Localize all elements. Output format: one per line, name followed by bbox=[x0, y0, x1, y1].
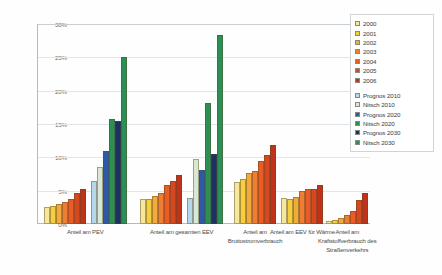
legend-item[interactable]: 2001 bbox=[355, 28, 430, 37]
legend-swatch-icon bbox=[355, 68, 360, 73]
bar[interactable] bbox=[121, 57, 127, 224]
legend-item[interactable]: Nitsch 2010 bbox=[355, 100, 430, 109]
legend-item[interactable]: 2002 bbox=[355, 38, 430, 47]
x-axis-label-line: Anteil am bbox=[287, 228, 407, 237]
legend-item[interactable]: Prognos 2010 bbox=[355, 91, 430, 100]
legend-label: 2000 bbox=[363, 20, 376, 27]
bars bbox=[44, 24, 127, 224]
legend-label: Prognos 2020 bbox=[363, 111, 400, 118]
legend-swatch-icon bbox=[355, 31, 360, 36]
bars bbox=[281, 24, 323, 224]
legend-item[interactable]: Prognos 2020 bbox=[355, 110, 430, 119]
legend-label: Prognos 2010 bbox=[363, 92, 400, 99]
legend-swatch-icon bbox=[355, 112, 360, 117]
legend-swatch-icon bbox=[355, 59, 360, 64]
legend-swatch-icon bbox=[355, 102, 360, 107]
legend-label: Nitsch 2010 bbox=[363, 101, 395, 108]
legend-item[interactable]: 2005 bbox=[355, 66, 430, 75]
legend-item[interactable]: Prognos 2030 bbox=[355, 128, 430, 137]
legend-swatch-icon bbox=[355, 130, 360, 135]
bar[interactable] bbox=[80, 189, 86, 224]
bar-group: Anteil am EEV für Wärme bbox=[280, 24, 324, 224]
legend-label: Nitsch 2030 bbox=[363, 139, 395, 146]
legend-swatch-icon bbox=[355, 21, 360, 26]
bar-group: Anteil am PEV bbox=[37, 24, 134, 224]
legend-swatch-icon bbox=[355, 140, 360, 145]
bar[interactable] bbox=[217, 35, 223, 224]
bar[interactable] bbox=[270, 145, 276, 224]
bar[interactable] bbox=[176, 175, 182, 224]
legend-label: Nitsch 2020 bbox=[363, 120, 395, 127]
bars bbox=[140, 24, 223, 224]
x-axis-label-line: Straßenverkehrs bbox=[287, 246, 407, 255]
legend-label: Prognos 2030 bbox=[363, 129, 400, 136]
legend-label: 2002 bbox=[363, 39, 376, 46]
legend-swatch-icon bbox=[355, 121, 360, 126]
legend-label: 2004 bbox=[363, 58, 376, 65]
legend-item[interactable]: 2003 bbox=[355, 47, 430, 56]
bar-groups: Anteil am PEVAnteil am gesamten EEVAntei… bbox=[37, 24, 370, 224]
legend-label: 2006 bbox=[363, 77, 376, 84]
x-axis-group-label: Anteil amKraftstoffverbrauch desStraßenv… bbox=[287, 228, 407, 255]
bars bbox=[234, 24, 276, 224]
legend-swatch-icon bbox=[355, 78, 360, 83]
chart-legend: 2000200120022003200420052006Prognos 2010… bbox=[350, 14, 434, 152]
bar[interactable] bbox=[362, 193, 368, 224]
chart-container: 30%25%20%15%10%5%0% Anteil am PEVAnteil … bbox=[0, 0, 442, 275]
legend-swatch-icon bbox=[355, 93, 360, 98]
legend-item[interactable]: Nitsch 2020 bbox=[355, 119, 430, 128]
x-axis-label-line: Kraftstoffverbrauch des bbox=[287, 237, 407, 246]
bar-group: Anteil am gesamten EEV bbox=[134, 24, 231, 224]
bar-group: Anteil amBruttostromverbrauch bbox=[230, 24, 280, 224]
legend-label: 2003 bbox=[363, 48, 376, 55]
legend-swatch-icon bbox=[355, 49, 360, 54]
legend-label: 2005 bbox=[363, 67, 376, 74]
plot-area: Anteil am PEVAnteil am gesamten EEVAntei… bbox=[37, 24, 370, 224]
legend-item[interactable]: 2004 bbox=[355, 57, 430, 66]
legend-item[interactable]: Nitsch 2030 bbox=[355, 138, 430, 147]
bar[interactable] bbox=[317, 185, 323, 224]
legend-item[interactable]: 2006 bbox=[355, 75, 430, 84]
legend-swatch-icon bbox=[355, 40, 360, 45]
legend-label: 2001 bbox=[363, 30, 376, 37]
legend-item[interactable]: 2000 bbox=[355, 19, 430, 28]
